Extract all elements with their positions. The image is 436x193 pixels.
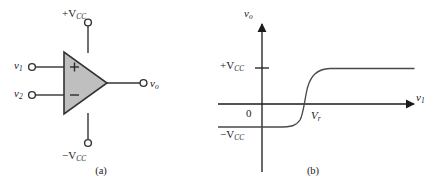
output-label: vo — [150, 78, 159, 90]
input-1-label: v1 — [14, 60, 23, 72]
opamp-triangle-body — [64, 52, 107, 114]
y-tick-negative-label: −VCC — [220, 129, 244, 142]
supply-negative-terminal — [85, 140, 92, 147]
caption-a: (a) — [78, 165, 124, 176]
y-axis-label: vo — [244, 8, 253, 20]
x-axis-label: v1 — [416, 92, 425, 104]
y-tick-positive-label: +VCC — [220, 60, 244, 73]
input-2-terminal — [29, 92, 36, 99]
panel-a-opamp-symbol: +VCC −VCC v1 v2 vo (a) — [0, 0, 218, 193]
supply-negative-label: −VCC — [62, 150, 86, 163]
supply-positive-label: +VCC — [62, 8, 86, 21]
figure-comparator: +VCC −VCC v1 v2 vo (a) vo +VCC −VCC 0 — [0, 0, 436, 193]
threshold-label: Vr — [311, 110, 321, 122]
caption-b: (b) — [290, 165, 336, 176]
origin-label: 0 — [246, 108, 252, 119]
output-terminal — [140, 80, 147, 87]
panel-b-transfer-characteristic: vo +VCC −VCC 0 Vr v1 (b) — [218, 0, 436, 193]
input-2-label: v2 — [14, 88, 23, 100]
input-1-terminal — [29, 64, 36, 71]
